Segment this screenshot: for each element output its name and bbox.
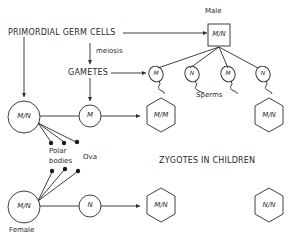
meiosis-label: meiosis (96, 48, 123, 55)
ovum-n-allele: N (79, 202, 101, 209)
polar-body-dot (75, 140, 79, 144)
male-genotype: M/N (208, 31, 230, 38)
sperm-1-allele: M (148, 70, 164, 76)
sperm-3-allele: M (220, 70, 236, 76)
primordial-germ-cells-label: PRIMORDIAL GERM CELLS (8, 29, 116, 37)
ova-label: Ova (83, 154, 97, 161)
zygote-1-genotype: M/M (147, 112, 175, 119)
polar-body-dot (49, 141, 53, 145)
polar-body-dot (76, 169, 80, 173)
polar-body-dot (50, 169, 54, 173)
sperm-2-allele: N (184, 70, 200, 76)
zygotes-in-children-label: ZYGOTES IN CHILDREN (159, 157, 255, 165)
polar-body-dot (62, 141, 66, 145)
female-top-genotype: M/N (8, 113, 40, 120)
gametes-label: GAMETES (68, 69, 108, 77)
polar-body-dot (63, 167, 67, 171)
zygote-4-genotype: N/N (255, 202, 283, 209)
sperms-label: Sperms (196, 92, 222, 99)
zygote-3-genotype: M/N (147, 202, 175, 209)
female-label: Female (9, 227, 34, 234)
female-bottom-genotype: M/N (8, 203, 40, 210)
bodies-label: bodies (49, 158, 72, 165)
zygote-2-genotype: M/N (255, 112, 283, 119)
ovum-m-allele: M (79, 112, 101, 119)
sperm-4-allele: N (255, 70, 271, 76)
polar-label: Polar (49, 148, 66, 155)
male-label: Male (205, 8, 222, 15)
